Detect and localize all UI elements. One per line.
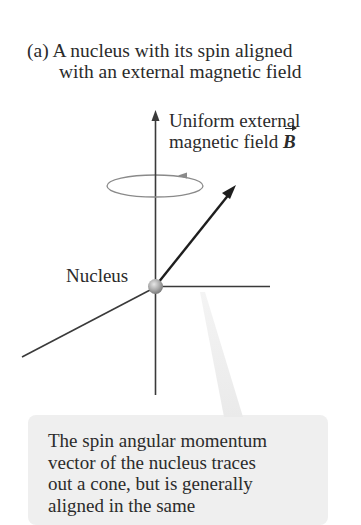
nucleus-label: Nucleus <box>66 265 128 287</box>
field-label-line-1: Uniform external <box>169 110 300 131</box>
z-axis <box>22 289 152 357</box>
b-vector-symbol: B <box>283 131 296 152</box>
callout-line-1: The spin angular momentum <box>48 430 267 452</box>
spin-vector <box>158 193 230 283</box>
field-arrow-icon <box>152 110 160 121</box>
callout-line-4: aligned in the same <box>48 495 267 517</box>
spin-vector-arrow-icon <box>222 185 236 199</box>
callout-line-3: out a cone, but is generally <box>48 473 267 495</box>
nucleus-sphere <box>148 279 163 294</box>
field-label: Uniform external magnetic field B <box>169 110 300 152</box>
callout-text: The spin angular momentum vector of the … <box>48 430 267 516</box>
callout-line-2: vector of the nucleus traces <box>48 452 267 474</box>
field-label-line-2: magnetic field B <box>169 131 300 152</box>
callout-pointer <box>200 292 243 417</box>
